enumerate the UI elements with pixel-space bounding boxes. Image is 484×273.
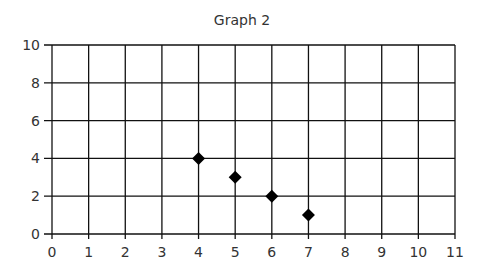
plot-area: 012345678910110246810	[0, 0, 484, 273]
x-tick-label: 2	[121, 244, 130, 260]
data-point-diamond	[302, 209, 315, 222]
data-point-diamond	[229, 171, 242, 184]
x-tick-label: 10	[409, 244, 427, 260]
y-tick-label: 6	[31, 113, 40, 129]
y-tick-label: 8	[31, 75, 40, 91]
x-tick-label: 11	[446, 244, 464, 260]
x-tick-label: 3	[157, 244, 166, 260]
data-point-diamond	[265, 190, 278, 203]
y-tick-label: 4	[31, 150, 40, 166]
x-tick-label: 8	[341, 244, 350, 260]
y-tick-label: 10	[22, 37, 40, 53]
x-tick-label: 6	[267, 244, 276, 260]
x-tick-label: 5	[231, 244, 240, 260]
x-tick-label: 1	[84, 244, 93, 260]
y-tick-label: 0	[31, 226, 40, 242]
x-tick-label: 4	[194, 244, 203, 260]
x-tick-label: 9	[377, 244, 386, 260]
x-tick-label: 0	[48, 244, 57, 260]
data-point-diamond	[192, 152, 205, 165]
scatter-chart: Graph 2 012345678910110246810	[0, 0, 484, 273]
y-tick-label: 2	[31, 188, 40, 204]
x-tick-label: 7	[304, 244, 313, 260]
